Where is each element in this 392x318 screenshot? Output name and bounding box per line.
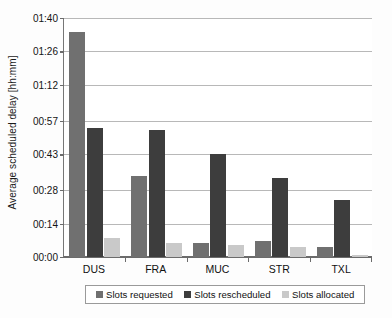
legend-item-slots-requested[interactable]: Slots requested — [96, 289, 173, 300]
chart-legend: Slots requestedSlots rescheduledSlots al… — [85, 285, 365, 304]
legend-item-slots-rescheduled[interactable]: Slots rescheduled — [184, 289, 271, 300]
y-tick-label: 00:14 — [12, 218, 58, 229]
x-tick-label-muc: MUC — [206, 263, 230, 275]
y-tick-label: 00:28 — [12, 185, 58, 196]
bar-group — [64, 18, 126, 257]
legend-swatch-icon — [96, 291, 103, 298]
legend-swatch-icon — [282, 291, 289, 298]
bar-group — [126, 18, 188, 257]
x-axis-end-tick — [371, 257, 372, 262]
y-tick-label: 01:26 — [12, 46, 58, 57]
x-tick-mark — [248, 257, 249, 262]
bar-chart: Average scheduled delay [hh:mm] 00:0000:… — [0, 0, 392, 318]
plot-area — [63, 18, 372, 257]
bar-group — [188, 18, 250, 257]
bar-txl-slots-rescheduled — [334, 200, 350, 257]
bar-dus-slots-rescheduled — [87, 128, 103, 257]
x-tick-mark — [187, 257, 188, 262]
y-tick-label: 01:40 — [12, 13, 58, 24]
bar-muc-slots-requested — [193, 243, 209, 257]
legend-swatch-icon — [184, 291, 191, 298]
bar-muc-slots-rescheduled — [210, 154, 226, 257]
bar-fra-slots-allocated — [166, 243, 182, 257]
legend-label: Slots requested — [106, 289, 173, 300]
bar-str-slots-rescheduled — [272, 178, 288, 257]
x-tick-mark — [310, 257, 311, 262]
bar-dus-slots-allocated — [104, 238, 120, 257]
y-tick-label: 00:00 — [12, 252, 58, 263]
x-axis: DUSFRAMUCSTRTXL — [63, 257, 372, 281]
bars-layer — [64, 18, 372, 257]
x-tick-label-str: STR — [269, 263, 290, 275]
x-tick-label-dus: DUS — [83, 263, 105, 275]
legend-label: Slots rescheduled — [194, 289, 270, 300]
bar-str-slots-allocated — [290, 247, 306, 257]
legend-label: Slots allocated — [292, 289, 354, 300]
bar-str-slots-requested — [255, 241, 271, 257]
x-tick-label-txl: TXL — [331, 263, 350, 275]
bar-dus-slots-requested — [69, 32, 85, 257]
y-tick-label: 00:57 — [12, 115, 58, 126]
bar-fra-slots-rescheduled — [149, 130, 165, 257]
bar-group — [249, 18, 311, 257]
bar-muc-slots-allocated — [228, 245, 244, 257]
bar-fra-slots-requested — [131, 176, 147, 257]
y-tick-label: 00:43 — [12, 149, 58, 160]
y-tick-label: 01:12 — [12, 79, 58, 90]
x-tick-label-fra: FRA — [145, 263, 166, 275]
legend-item-slots-allocated[interactable]: Slots allocated — [282, 289, 355, 300]
x-tick-mark — [125, 257, 126, 262]
bar-txl-slots-requested — [317, 247, 333, 257]
bar-group — [311, 18, 373, 257]
